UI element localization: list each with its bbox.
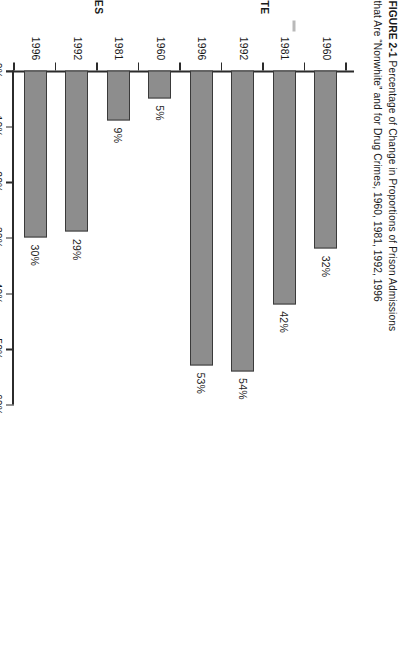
- category-axis-tick: [345, 62, 346, 70]
- category-axis-tick: [96, 62, 97, 70]
- figure-number: FIGURE 2-1: [387, 0, 398, 57]
- value-axis-tick: [6, 348, 14, 349]
- category-axis-label: 1996: [196, 36, 207, 60]
- bar: [107, 70, 130, 120]
- category-axis-tick: [13, 62, 14, 70]
- bar-chart-plot-area: 32%42%54%53%5%9%29%30% 0%10%20%30%40%50%…: [14, 70, 346, 630]
- group-title: DRUG CRIMES: [92, 0, 103, 14]
- bar-value-label: 30%: [30, 244, 42, 266]
- category-axis-label: 1960: [155, 36, 166, 60]
- group-marker-dash: [292, 20, 295, 31]
- bar-value-label: 5%: [154, 105, 166, 121]
- value-axis-tick-label: 40%: [0, 282, 3, 303]
- category-axis-label: 1960: [321, 36, 332, 60]
- bar-value-label: 9%: [113, 127, 125, 143]
- category-axis-tick: [262, 62, 263, 70]
- category-axis-tick: [138, 62, 139, 70]
- value-axis-tick-label: 10%: [0, 115, 3, 136]
- value-axis-tick: [6, 181, 14, 182]
- bar: [24, 70, 47, 237]
- value-axis-tick: [6, 293, 14, 294]
- category-axis-tick: [221, 62, 222, 70]
- bar: [66, 70, 89, 231]
- figure-caption-line-1: FIGURE 2-1 Percentage of Change in Propo…: [385, 0, 400, 600]
- bar-value-label: 53%: [196, 372, 208, 394]
- value-axis-tick-label: 20%: [0, 171, 3, 192]
- bar: [190, 70, 213, 365]
- value-axis-tick-label: 60%: [0, 393, 3, 414]
- bar: [232, 70, 255, 371]
- value-axis-tick-label: 50%: [0, 338, 3, 359]
- value-axis-tick: [6, 237, 14, 238]
- bar: [149, 70, 172, 98]
- category-axis-label: 1996: [30, 36, 41, 60]
- bar-value-label: 54%: [237, 378, 249, 400]
- value-axis-tick-label: 30%: [0, 226, 3, 247]
- figure-caption-line-2: that Are “Nonwhite” and for Drug Crimes,…: [370, 0, 385, 600]
- value-axis-tick: [6, 404, 14, 405]
- category-axis-tick: [55, 62, 56, 70]
- rotated-page-wrapper: FIGURE 2-1 Percentage of Change in Propo…: [0, 0, 420, 653]
- figure-caption: FIGURE 2-1 Percentage of Change in Propo…: [370, 0, 400, 600]
- bar-value-label: 32%: [320, 255, 332, 277]
- category-axis-tick: [304, 62, 305, 70]
- bar: [273, 70, 296, 304]
- figure-caption-text-1: Percentage of Change in Proportions of P…: [387, 60, 398, 331]
- value-axis-tick-label: 0%: [0, 62, 3, 77]
- category-axis-tick: [179, 62, 180, 70]
- group-title: NONWHITE: [258, 0, 269, 14]
- bar-value-label: 29%: [71, 238, 83, 260]
- category-axis-label: 1992: [238, 36, 249, 60]
- category-axis-label: 1981: [113, 36, 124, 60]
- value-axis-tick: [6, 126, 14, 127]
- bar: [315, 70, 338, 248]
- bar-value-label: 42%: [279, 311, 291, 333]
- category-axis-label: 1981: [279, 36, 290, 60]
- category-axis-label: 1992: [72, 36, 83, 60]
